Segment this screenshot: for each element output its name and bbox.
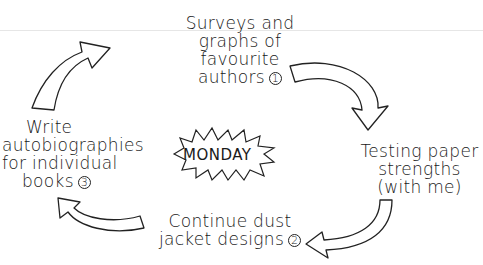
step-line: strengths — [356, 160, 483, 178]
step-line: autobiographies — [2, 136, 152, 154]
step-autobiographies: Write autobiographies for individual boo… — [2, 118, 152, 190]
step-testing: Testing paper strengths (with me) — [356, 142, 483, 196]
arrow-to-surveys-icon — [32, 42, 110, 110]
step-line: Continue dust — [150, 212, 310, 230]
arrow-to-autobiographies-icon — [58, 198, 144, 231]
step-number-badge: 1 — [269, 72, 282, 85]
step-line: for individual — [2, 154, 152, 172]
step-line: Write — [2, 118, 152, 136]
step-surveys: Surveys and graphs of favourite authors1 — [160, 14, 320, 86]
step-dust-jacket: Continue dust jacket designs2 — [150, 212, 310, 248]
step-line: Surveys and — [160, 14, 320, 32]
step-number-badge: 3 — [78, 176, 91, 189]
step-line: books — [22, 171, 74, 191]
step-number-badge: 2 — [288, 234, 301, 247]
step-line: graphs of — [160, 32, 320, 50]
step-line: Testing paper — [356, 142, 483, 160]
step-line: favourite — [160, 50, 320, 68]
step-line: (with me) — [356, 178, 483, 196]
step-line: authors — [198, 67, 265, 87]
step-line: jacket designs — [159, 229, 284, 249]
arrow-to-dust-jacket-icon — [306, 200, 392, 258]
monday-label: MONDAY — [183, 146, 252, 164]
